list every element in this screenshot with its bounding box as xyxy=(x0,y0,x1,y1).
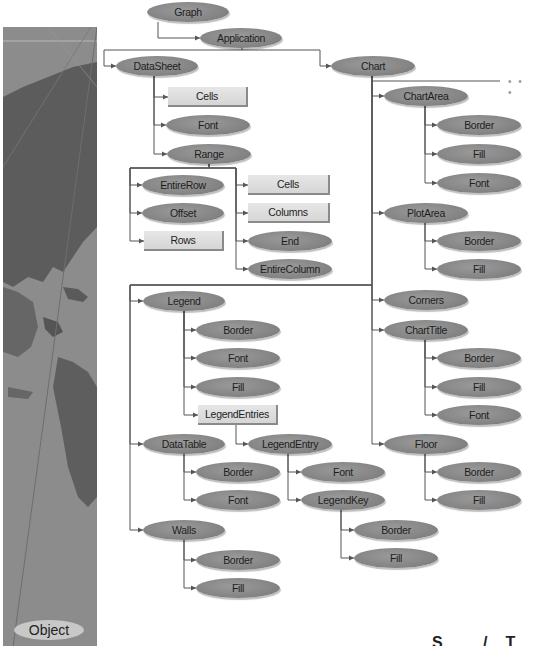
node-floor: Floor xyxy=(384,434,468,454)
node-rows: Rows xyxy=(144,231,224,251)
node-graph: Graph xyxy=(147,2,229,22)
node-fl-border: Border xyxy=(437,462,521,482)
node-legendentries: LegendEntries xyxy=(198,405,278,425)
node-corners: Corners xyxy=(384,290,468,310)
node-lk-fill: Fill xyxy=(354,548,438,568)
node-wl-fill: Fill xyxy=(196,578,280,598)
node-legendkey: LegendKey xyxy=(301,490,385,510)
node-ca-border: Border xyxy=(437,115,521,135)
corner-page-text: S /T xyxy=(432,634,533,646)
node-application: Application xyxy=(200,28,282,48)
node-pa-border: Border xyxy=(437,231,521,251)
node-ct-font: Font xyxy=(437,405,521,425)
node-pa-fill: Fill xyxy=(437,259,521,279)
node-legendentry: LegendEntry xyxy=(248,434,332,454)
node-ct-fill: Fill xyxy=(437,377,521,397)
node-ca-font: Font xyxy=(437,173,521,193)
node-chartarea: ChartArea xyxy=(384,86,468,106)
node-ds-cells: Cells xyxy=(168,87,248,107)
node-datasheet: DataSheet xyxy=(116,56,198,76)
node-lk-border: Border xyxy=(354,520,438,540)
node-lg-border: Border xyxy=(196,320,280,340)
node-fl-fill: Fill xyxy=(437,490,521,510)
node-entirecolumn: EntireColumn xyxy=(248,259,332,279)
node-entirerow: EntireRow xyxy=(142,175,224,195)
node-wl-border: Border xyxy=(196,550,280,570)
node-plotarea: PlotArea xyxy=(384,203,468,223)
node-lg-font: Font xyxy=(196,348,280,368)
node-lg-fill: Fill xyxy=(196,377,280,397)
node-datatable: DataTable xyxy=(143,434,225,454)
node-walls: Walls xyxy=(143,520,225,540)
node-ct-border: Border xyxy=(437,348,521,368)
node-le-font: Font xyxy=(301,462,385,482)
node-r-cells: Cells xyxy=(248,175,330,195)
node-legend: Legend xyxy=(143,291,225,311)
node-dt-border: Border xyxy=(196,462,280,482)
more-indicator: • • • xyxy=(508,76,534,98)
node-offset: Offset xyxy=(142,203,224,223)
node-ca-fill: Fill xyxy=(437,144,521,164)
node-end: End xyxy=(248,231,332,251)
node-charttitle: ChartTitle xyxy=(384,320,468,340)
node-dt-font: Font xyxy=(196,490,280,510)
node-ds-font: Font xyxy=(166,115,250,135)
node-columns: Columns xyxy=(248,203,330,223)
node-chart: Chart xyxy=(331,56,415,76)
node-range: Range xyxy=(167,144,251,164)
